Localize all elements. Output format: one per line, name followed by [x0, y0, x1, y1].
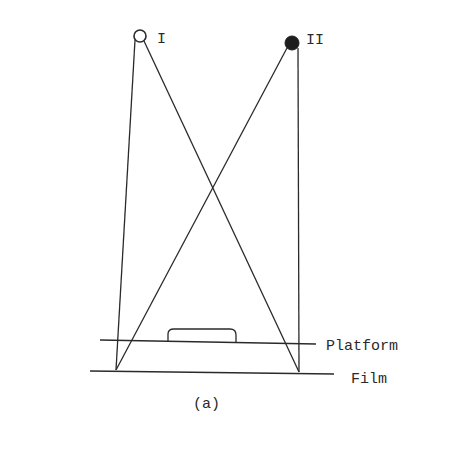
ray-source-1-right	[144, 41, 299, 372]
source-1-icon	[134, 30, 146, 42]
ray-source-2-right	[298, 48, 299, 372]
ray-source-1-left	[116, 40, 135, 370]
film-line	[90, 371, 334, 374]
ray-source-2-left	[116, 48, 287, 370]
figure-caption: (a)	[193, 396, 220, 413]
source-1-label: I	[157, 31, 166, 48]
source-2-icon	[285, 36, 299, 50]
x-ray-projection-diagram: I II Platform Film (a)	[0, 0, 459, 472]
source-2-label: II	[306, 32, 324, 49]
film-label: Film	[351, 371, 387, 388]
platform-label: Platform	[326, 338, 398, 355]
object-on-platform	[168, 329, 236, 342]
